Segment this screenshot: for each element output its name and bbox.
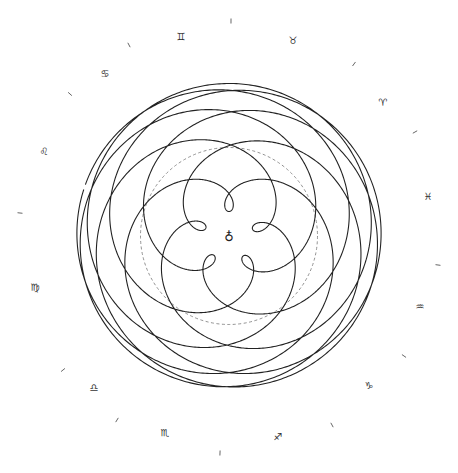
libra-sign-icon: ♎ [90,382,99,393]
scorpio-sign-icon: ♏ [161,427,170,438]
zodiac-tick [353,62,356,66]
gemini-sign-icon: ♊ [177,31,186,42]
diagram-canvas: ♊♉♈♓♒♑♐♏♎♍♌♋ ♁ [0,0,458,473]
zodiac-tick [413,131,417,133]
zodiac-tick [61,368,65,371]
pisces-sign-icon: ♓ [424,191,433,202]
capricorn-sign-icon: ♑ [365,380,374,391]
zodiac-tick [18,213,23,214]
aquarius-sign-icon: ♒ [416,301,425,312]
cancer-sign-icon: ♋ [101,68,110,79]
virgo-sign-icon: ♍ [31,282,40,293]
zodiac-tick [68,92,72,95]
leo-sign-icon: ♌ [40,146,49,157]
zodiac-tick [128,43,130,47]
zodiac-tick [116,418,119,422]
zodiac-tick [331,423,333,427]
aries-sign-icon: ♈ [379,97,388,108]
zodiac-tick [402,355,406,358]
venus-orbit-diagram: ♊♉♈♓♒♑♐♏♎♍♌♋ ♁ [0,0,458,473]
earth-icon: ♁ [224,229,234,244]
taurus-sign-icon: ♉ [289,35,298,46]
sagittarius-sign-icon: ♐ [274,431,283,442]
zodiac-tick [436,265,441,266]
